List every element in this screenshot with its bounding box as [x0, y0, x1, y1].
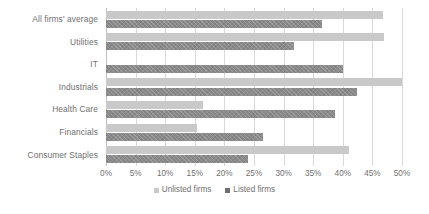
category-label: Consumer Staples [0, 143, 102, 166]
bar-listed [106, 20, 322, 28]
bar-group [106, 143, 402, 166]
bar-listed [106, 110, 335, 118]
category-label: IT [0, 53, 102, 76]
bar-group [106, 31, 402, 54]
value-tick-label: 0% [100, 167, 112, 181]
category-label: Industrials [0, 76, 102, 99]
bar-listed [106, 65, 343, 73]
bar-unlisted [106, 78, 402, 86]
category-label: Utilities [0, 31, 102, 54]
value-tick-label: 5% [130, 167, 142, 181]
value-tick-label: 30% [275, 167, 291, 181]
bar-unlisted [106, 124, 197, 132]
bar-listed [106, 42, 294, 50]
category-label: All firms' average [0, 8, 102, 31]
bar-group [106, 76, 402, 99]
legend-item-unlisted[interactable]: Unlisted firms [154, 186, 212, 194]
category-label: Health Care [0, 98, 102, 121]
legend-swatch-icon [225, 188, 230, 193]
category-axis: All firms' averageUtilitiesITIndustrials… [0, 8, 102, 166]
value-tick-label: 50% [394, 167, 410, 181]
bar-groups [106, 8, 402, 166]
legend-label: Unlisted firms [162, 186, 212, 194]
bar-group [106, 53, 402, 76]
bar-unlisted [106, 146, 349, 154]
bar-unlisted [106, 11, 383, 19]
plot-area [106, 8, 402, 166]
value-tick-label: 10% [157, 167, 173, 181]
bar-group [106, 98, 402, 121]
value-tick-label: 35% [305, 167, 321, 181]
value-tick-label: 20% [216, 167, 232, 181]
value-axis: 0%5%10%15%20%25%30%35%40%45%50% [106, 167, 402, 181]
value-tick-label: 45% [364, 167, 380, 181]
value-tick-label: 25% [246, 167, 262, 181]
bar-unlisted [106, 33, 384, 41]
bar-listed [106, 88, 357, 96]
legend-item-listed[interactable]: Listed firms [225, 186, 275, 194]
bar-unlisted [106, 101, 203, 109]
bar-listed [106, 133, 263, 141]
bar-group [106, 8, 402, 31]
legend-label: Listed firms [233, 186, 275, 194]
value-tick-label: 40% [335, 167, 351, 181]
bar-chart: All firms' averageUtilitiesITIndustrials… [0, 0, 429, 214]
category-label: Financials [0, 121, 102, 144]
chart-legend: Unlisted firmsListed firms [0, 186, 429, 194]
gridline [402, 8, 403, 166]
bar-group [106, 121, 402, 144]
bar-listed [106, 155, 248, 163]
value-tick-label: 15% [187, 167, 203, 181]
legend-swatch-icon [154, 188, 159, 193]
